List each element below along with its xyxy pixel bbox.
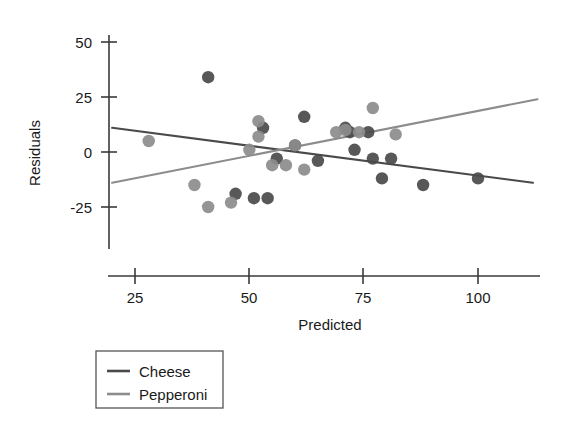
data-point-cheese xyxy=(376,172,388,184)
data-point-pepperoni xyxy=(202,201,214,213)
data-point-pepperoni xyxy=(367,102,379,114)
data-point-cheese xyxy=(367,152,379,164)
data-point-cheese xyxy=(261,192,273,204)
y-tick-label-25: 25 xyxy=(75,89,92,106)
x-axis-title: Predicted xyxy=(298,316,361,333)
data-point-cheese xyxy=(472,172,484,184)
residual-plot: 50 25 0 -25 Residuals 25 50 75 100 Predi… xyxy=(0,0,566,430)
data-point-pepperoni xyxy=(252,115,264,127)
data-point-pepperoni xyxy=(353,126,365,138)
data-point-pepperoni xyxy=(339,124,351,136)
x-tick-label-25: 25 xyxy=(127,289,144,306)
data-point-pepperoni xyxy=(225,196,237,208)
data-point-pepperoni xyxy=(298,163,310,175)
data-point-pepperoni xyxy=(389,128,401,140)
trend-line-cheese xyxy=(112,128,533,183)
y-tick-label-0: 0 xyxy=(84,144,92,161)
data-point-cheese xyxy=(417,179,429,191)
data-point-cheese xyxy=(248,192,260,204)
x-tick-label-100: 100 xyxy=(465,289,490,306)
legend-label-cheese: Cheese xyxy=(139,363,191,380)
y-axis-title: Residuals xyxy=(26,120,43,186)
data-point-pepperoni xyxy=(243,144,255,156)
legend-label-pepperoni: Pepperoni xyxy=(139,386,207,403)
plot-canvas: 50 25 0 -25 Residuals 25 50 75 100 Predi… xyxy=(0,0,566,430)
trend-line-pepperoni xyxy=(112,99,537,183)
y-tick-label-neg25: -25 xyxy=(70,199,92,216)
data-point-pepperoni xyxy=(280,159,292,171)
data-point-cheese xyxy=(298,111,310,123)
data-point-pepperoni xyxy=(188,179,200,191)
data-point-cheese xyxy=(348,144,360,156)
data-point-cheese xyxy=(202,71,214,83)
data-point-cheese xyxy=(312,155,324,167)
x-tick-label-50: 50 xyxy=(241,289,258,306)
data-point-pepperoni xyxy=(143,135,155,147)
y-tick-label-50: 50 xyxy=(75,34,92,51)
data-series-layer xyxy=(112,71,537,213)
data-point-cheese xyxy=(385,152,397,164)
data-point-pepperoni xyxy=(252,130,264,142)
x-tick-label-75: 75 xyxy=(355,289,372,306)
data-point-pepperoni xyxy=(289,139,301,151)
data-point-pepperoni xyxy=(266,159,278,171)
